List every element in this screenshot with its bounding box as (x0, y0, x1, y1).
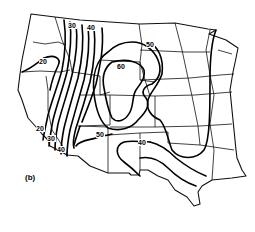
contour-label: 60 (117, 63, 125, 70)
contour-lines (22, 20, 216, 186)
contour-label: 40 (87, 24, 95, 31)
contour-label: 20 (36, 125, 44, 132)
contour-label: 40 (57, 146, 65, 153)
contour-label: 30 (47, 135, 55, 142)
panel-label: (b) (25, 173, 35, 182)
contour-label: 40 (138, 139, 146, 146)
contour-label: 20 (39, 58, 47, 65)
contour-label: 30 (68, 22, 76, 29)
contour-label: 50 (146, 41, 154, 48)
contour-label: 50 (96, 131, 104, 138)
contour-map: 30 40 20 60 50 20 30 40 50 40 (0, 0, 255, 232)
